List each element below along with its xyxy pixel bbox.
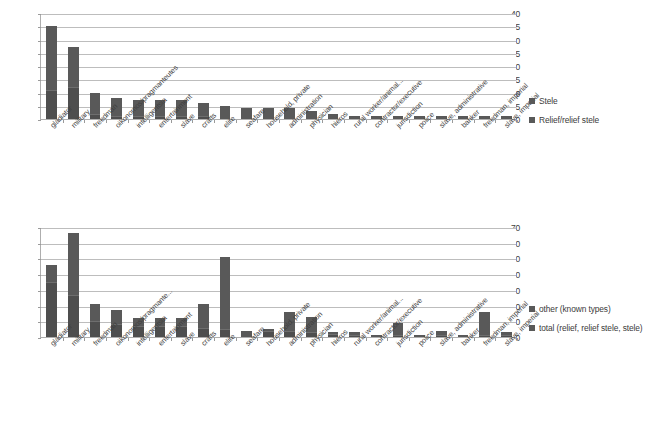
chart-top-plot-area: 0510152025303540 gladiatormilitaryfreedm… bbox=[0, 0, 520, 200]
legend-item[interactable]: total (relief, relief stele, stele) bbox=[529, 323, 643, 333]
x-tick-label: banker bbox=[460, 108, 481, 129]
legend-label: Relief/relief stele bbox=[539, 115, 599, 125]
legend-swatch-icon bbox=[529, 98, 535, 104]
legend-label: total (relief, relief stele, stele) bbox=[539, 323, 643, 333]
x-tick-label: slave bbox=[179, 112, 197, 130]
x-tick-label: police bbox=[417, 329, 436, 348]
chart-bottom-legend: other (known types)total (relief, relief… bbox=[529, 304, 643, 342]
x-tick-label: crafts bbox=[200, 330, 218, 348]
x-tick-label: slave bbox=[179, 330, 197, 348]
x-tick-label: police bbox=[417, 111, 436, 130]
x-tick-label: elite bbox=[222, 115, 237, 130]
x-tick-label: hieros bbox=[330, 328, 349, 347]
x-tick-label: seafare bbox=[244, 107, 267, 130]
chart-bottom-x-axis: gladiatormilitaryfreedmanoikonomos/pragm… bbox=[0, 210, 520, 422]
x-tick-label: military bbox=[70, 326, 92, 348]
x-tick-label: seafare bbox=[244, 325, 267, 348]
legend-swatch-icon bbox=[529, 325, 535, 331]
chart-top: 0510152025303540 gladiatormilitaryfreedm… bbox=[0, 0, 662, 200]
x-tick-label: elite bbox=[222, 333, 237, 348]
x-tick-label: hieros bbox=[330, 110, 349, 129]
legend-swatch-icon bbox=[529, 306, 535, 312]
chart-top-legend: SteleRelief/relief stele bbox=[529, 96, 599, 134]
legend-item[interactable]: Relief/relief stele bbox=[529, 115, 599, 125]
legend-item[interactable]: other (known types) bbox=[529, 304, 643, 314]
legend-label: Stele bbox=[539, 96, 558, 106]
x-tick-label: military bbox=[70, 108, 92, 130]
legend-label: other (known types) bbox=[539, 304, 611, 314]
x-tick-label: gladiator bbox=[49, 105, 74, 130]
chart-bottom: 010203040506070 gladiatormilitaryfreedma… bbox=[0, 210, 662, 422]
x-tick-label: crafts bbox=[200, 112, 218, 130]
chart-top-x-axis: gladiatormilitaryfreedmanoikonomos/pragm… bbox=[0, 0, 520, 200]
figure-two-stacked-bar-charts: 0510152025303540 gladiatormilitaryfreedm… bbox=[0, 0, 662, 422]
legend-item[interactable]: Stele bbox=[529, 96, 599, 106]
chart-bottom-plot-area: 010203040506070 gladiatormilitaryfreedma… bbox=[0, 210, 520, 422]
x-tick-label: gladiator bbox=[49, 323, 74, 348]
legend-swatch-icon bbox=[529, 117, 535, 123]
x-tick-label: banker bbox=[460, 326, 481, 347]
